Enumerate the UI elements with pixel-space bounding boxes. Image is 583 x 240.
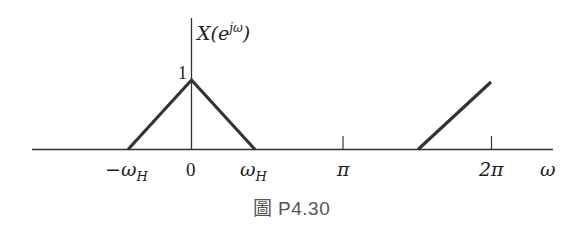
y-axis-label: X(ejω) — [195, 21, 250, 44]
tick-label-zero: 0 — [186, 159, 196, 180]
tick-label-two-pi: 2π — [478, 158, 504, 180]
tick-label-omega-h: ωH — [240, 158, 268, 184]
tick-label-neg-omega-h: −ωH — [105, 158, 148, 184]
peak-label: 1 — [178, 63, 187, 83]
figure-caption: 圖 P4.30 — [0, 193, 583, 220]
x-axis-label: ω — [540, 158, 556, 180]
periodic-rising-edge — [418, 82, 491, 150]
tick-label-pi: π — [336, 158, 350, 180]
